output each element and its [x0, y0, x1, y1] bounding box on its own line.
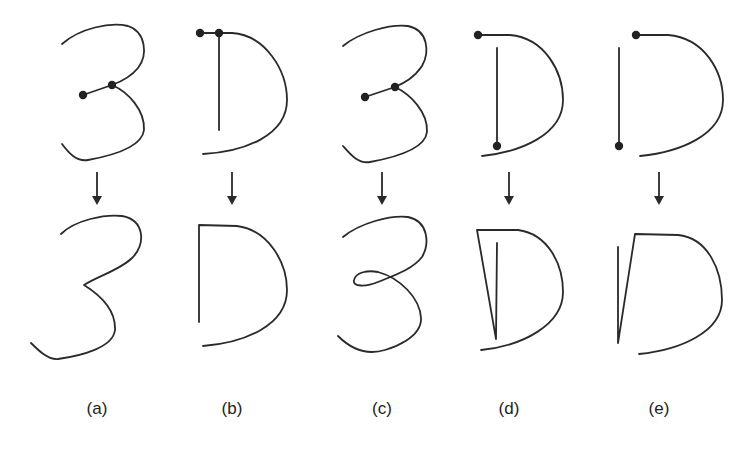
panel-e-arrow — [654, 172, 664, 205]
panel-d-label: (d) — [489, 399, 529, 419]
panel-d-bowl — [478, 35, 563, 156]
panel-e-node-top — [632, 31, 640, 39]
panel-b-result-stroke — [199, 225, 287, 346]
panel-e-node-bottom — [615, 142, 623, 150]
panel-a-node-left — [79, 91, 87, 99]
panel-b-bowl — [203, 33, 287, 154]
panel-e-after — [618, 234, 722, 354]
panel-d-before — [474, 31, 563, 156]
panel-e-bowl — [636, 35, 723, 156]
panel-c-result-stroke — [338, 217, 426, 352]
panel-c-node-left — [361, 93, 369, 101]
stroke-merge-diagram — [0, 0, 748, 454]
panel-a-node-right — [108, 81, 116, 89]
panel-a-upper-stroke — [62, 25, 144, 85]
panel-c-after — [338, 217, 426, 352]
panel-a-label: (a) — [77, 399, 117, 419]
panel-b-arrow — [227, 172, 237, 205]
panel-d-result-stroke — [477, 230, 563, 350]
panel-b-node-left — [196, 29, 204, 37]
panel-d-node-bottom — [493, 142, 501, 150]
panel-a-arrow — [92, 172, 102, 205]
panel-a-connector — [83, 85, 112, 95]
panel-c-upper-stroke — [343, 26, 426, 87]
panel-a-after — [31, 216, 141, 359]
panel-c-connector — [365, 87, 395, 97]
panel-e-before — [615, 31, 723, 156]
panel-e-label: (e) — [639, 399, 679, 419]
panel-a-lower-stroke — [62, 85, 144, 160]
panel-d-node-top — [474, 31, 482, 39]
panel-c-node-right — [391, 83, 399, 91]
panel-d-after — [477, 230, 563, 350]
panel-e-result-stroke — [618, 234, 722, 354]
panel-d-arrow — [504, 172, 514, 205]
panel-b-after — [199, 225, 287, 346]
panel-c-arrow — [377, 172, 387, 205]
panel-a-result-stroke — [31, 216, 141, 359]
panel-b-before — [196, 29, 287, 154]
panel-b-label: (b) — [212, 399, 252, 419]
panel-c-before — [343, 26, 427, 163]
panel-c-lower-stroke — [343, 87, 427, 162]
panel-a-before — [62, 25, 144, 160]
panel-c-label: (c) — [362, 399, 402, 419]
panel-b-node-right — [215, 29, 223, 37]
